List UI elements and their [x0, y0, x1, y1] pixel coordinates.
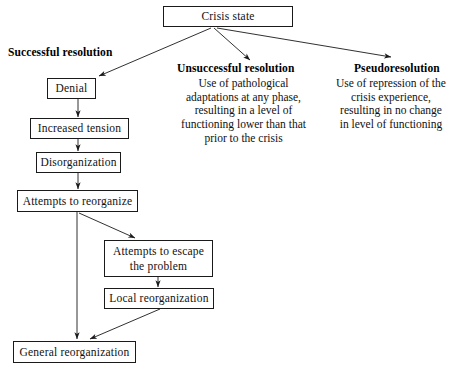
- node-label: Local reorganization: [109, 291, 208, 305]
- node-disorganization[interactable]: Disorganization: [36, 152, 121, 173]
- node-label: Increased tension: [38, 121, 122, 135]
- node-label: Attempts to escape the problem: [109, 244, 208, 272]
- node-crisis-state[interactable]: Crisis state: [163, 6, 293, 27]
- node-label: Crisis state: [201, 9, 254, 23]
- node-local-reorganization[interactable]: Local reorganization: [104, 288, 214, 309]
- branch-heading-successful: Successful resolution: [8, 46, 112, 58]
- branch-description-pseudoresolution: Use of repression of the crisis experien…: [336, 77, 446, 132]
- branch-heading-pseudoresolution: Pseudoresolution: [354, 62, 440, 74]
- flowchart-canvas: Crisis state Successful resolution Unsuc…: [0, 0, 450, 376]
- node-label: Disorganization: [40, 155, 116, 169]
- branch-description-unsuccessful: Use of pathological adaptations at any p…: [172, 77, 315, 145]
- node-denial[interactable]: Denial: [47, 78, 96, 99]
- connector-crisis-to-unsuccessful: [214, 28, 250, 60]
- node-attempts-to-reorganize[interactable]: Attempts to reorganize: [17, 190, 138, 212]
- node-label: General reorganization: [20, 345, 130, 359]
- node-label: Denial: [56, 81, 88, 95]
- connector-attempts-reorganize-to-escape: [79, 213, 135, 238]
- node-general-reorganization[interactable]: General reorganization: [13, 341, 136, 363]
- branch-heading-unsuccessful: Unsuccessful resolution: [177, 62, 294, 74]
- connector-crisis-to-pseudoresolution: [217, 28, 391, 57]
- connector-local-to-general: [90, 309, 160, 339]
- node-increased-tension[interactable]: Increased tension: [30, 118, 129, 139]
- node-label: Attempts to reorganize: [23, 194, 133, 208]
- node-attempts-to-escape-the-problem[interactable]: Attempts to escape the problem: [104, 240, 213, 277]
